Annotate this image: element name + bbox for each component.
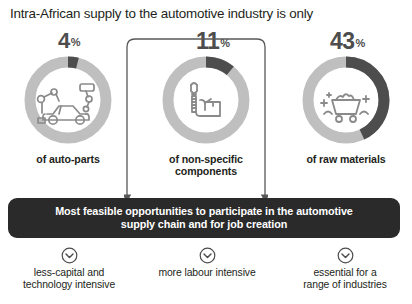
footnote-less-capital: less-capital and technology intensive: [2, 247, 136, 292]
stat-column-raw-materials: 43%: [280, 34, 412, 184]
footnote-line-1: essential for a: [313, 267, 376, 278]
stat-value-non-specific: 11%: [196, 30, 230, 53]
page-title: Intra-African supply to the automotive i…: [10, 6, 402, 21]
stat-number: 4: [58, 28, 70, 53]
stat-column-auto-parts: 4%: [2, 34, 134, 184]
caption-line-1: of non-specific: [169, 153, 243, 165]
footnote-label: more labour intensive: [140, 267, 274, 279]
footnote-line-1: less-capital and: [34, 267, 105, 278]
donut-chart-raw-materials: [298, 52, 394, 148]
footnote-label: essential for a range of industries: [278, 267, 412, 292]
donut-chart-non-specific: [158, 52, 254, 148]
footnote-label: less-capital and technology intensive: [2, 267, 136, 292]
donut-chart-auto-parts: [20, 52, 116, 148]
banner-line-1: Most feasible opportunities to participa…: [55, 205, 353, 217]
stat-caption-non-specific: of non-specific components: [140, 154, 272, 178]
infographic-root: Intra-African supply to the automotive i…: [0, 0, 412, 304]
chevron-down-circle-icon: [199, 247, 216, 264]
banner-line-2: supply chain and for job creation: [121, 218, 287, 230]
mining-cart-icon: [321, 93, 369, 122]
percent-symbol: %: [356, 37, 366, 49]
footnote-line-2: technology intensive: [23, 279, 115, 290]
stat-number: 43: [330, 28, 355, 54]
percent-symbol: %: [71, 36, 81, 48]
stat-number: 11: [196, 28, 219, 54]
stat-value-raw-materials: 43%: [330, 30, 365, 53]
key-message-banner: Most feasible opportunities to participa…: [8, 198, 400, 238]
stat-caption-raw-materials: of raw materials: [280, 154, 412, 166]
footnote-line-1: more labour intensive: [158, 267, 255, 278]
percent-symbol: %: [220, 37, 230, 49]
chevron-down-circle-icon: [337, 247, 354, 264]
robot-arm-car-assembly-icon: [38, 84, 94, 124]
stat-value-auto-parts: 4%: [58, 30, 81, 52]
banner-text: Most feasible opportunities to participa…: [41, 205, 367, 231]
footnote-line-2: range of industries: [303, 279, 387, 290]
caption-line-2: components: [175, 165, 237, 177]
wrench-hand-package-icon: [191, 83, 220, 116]
stat-caption-auto-parts: of auto-parts: [2, 154, 134, 166]
footnote-essential: essential for a range of industries: [278, 247, 412, 292]
chevron-down-circle-icon: [61, 247, 78, 264]
footnote-more-labour: more labour intensive: [140, 247, 274, 279]
stat-column-non-specific-components: 11%: [140, 34, 272, 184]
